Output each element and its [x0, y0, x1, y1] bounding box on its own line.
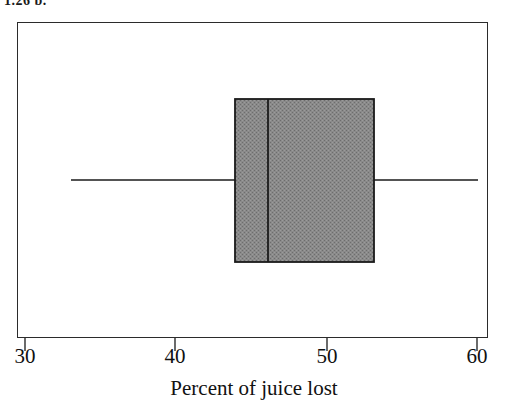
- x-tick-label-60: 60: [467, 344, 488, 369]
- plot-frame: [17, 22, 488, 338]
- x-tick-label-50: 50: [317, 344, 338, 369]
- x-axis-title: Percent of juice lost: [0, 376, 508, 401]
- x-axis-tick-labels: 30 40 50 60: [0, 344, 508, 372]
- boxplot-figure: 1.26 b. 30 40 50 60 Perc: [0, 0, 508, 413]
- exercise-label: 1.26 b.: [4, 0, 47, 9]
- x-tick-label-40: 40: [165, 344, 186, 369]
- x-tick-label-30: 30: [15, 344, 36, 369]
